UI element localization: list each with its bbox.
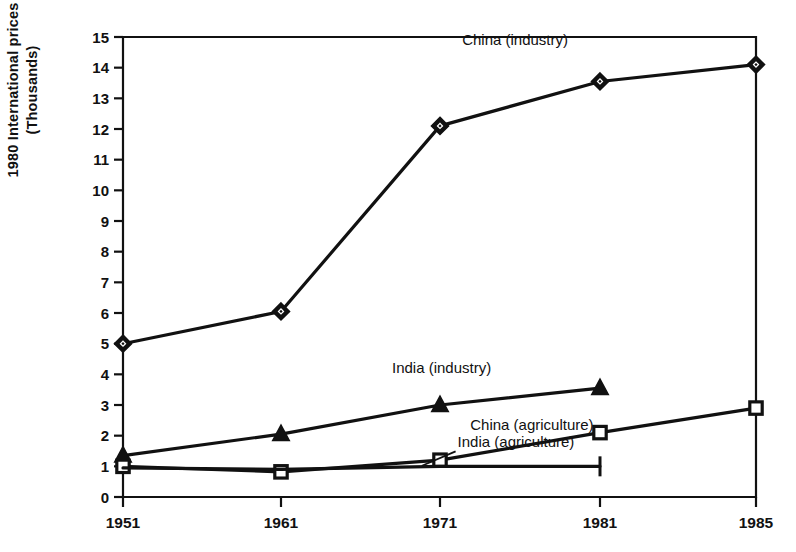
y-tick-label: 13 bbox=[92, 90, 109, 107]
y-tick-label: 2 bbox=[101, 427, 109, 444]
series-label: China (agriculture) bbox=[470, 416, 593, 433]
y-tick-label: 11 bbox=[93, 151, 109, 168]
x-tick-label: 1971 bbox=[423, 514, 458, 531]
series-label: India (agriculture) bbox=[458, 433, 575, 450]
y-tick-label: 14 bbox=[92, 59, 109, 76]
y-tick-label: 3 bbox=[101, 397, 109, 414]
y-tick-label: 4 bbox=[101, 366, 110, 383]
data-point-square bbox=[594, 426, 606, 438]
series-label: India (industry) bbox=[392, 359, 491, 376]
series-china-industry bbox=[115, 56, 765, 352]
series-line bbox=[123, 466, 600, 469]
plot-frame bbox=[123, 37, 756, 497]
data-series-group bbox=[115, 56, 765, 478]
data-point-triangle bbox=[592, 379, 609, 394]
x-tick-label: 1961 bbox=[264, 514, 299, 531]
y-tick-label: 10 bbox=[92, 182, 109, 199]
series-line bbox=[123, 65, 756, 344]
series-label: China (industry) bbox=[462, 31, 568, 48]
y-tick-label: 8 bbox=[101, 243, 109, 260]
x-tick-label: 1985 bbox=[739, 514, 774, 531]
y-tick-label: 15 bbox=[92, 29, 109, 46]
x-tick-label: 1981 bbox=[583, 514, 618, 531]
y-tick-label: 5 bbox=[101, 335, 109, 352]
y-axis-ticks: 0123456789101112131415 bbox=[92, 29, 123, 506]
y-tick-label: 1 bbox=[101, 458, 109, 475]
data-point-square bbox=[275, 466, 287, 478]
y-tick-label: 7 bbox=[101, 274, 109, 291]
y-tick-label: 9 bbox=[101, 213, 109, 230]
series-india-agriculture bbox=[123, 456, 600, 476]
y-tick-label: 6 bbox=[101, 305, 109, 322]
y-tick-label: 12 bbox=[92, 121, 109, 138]
x-axis-ticks: 19511961197119811985 bbox=[106, 497, 774, 531]
chart-figure: 1980 International prices (Thousands) 01… bbox=[0, 0, 796, 552]
y-tick-label: 0 bbox=[101, 489, 109, 506]
x-tick-label: 1951 bbox=[106, 514, 141, 531]
line-chart-plot: 0123456789101112131415 19511961197119811… bbox=[0, 0, 796, 552]
data-point-square bbox=[750, 402, 762, 414]
